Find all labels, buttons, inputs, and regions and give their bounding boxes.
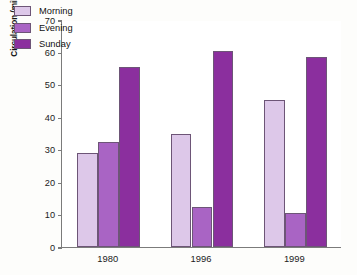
bar-evening-1999	[285, 213, 306, 247]
bar-sunday-1996	[213, 51, 234, 247]
bar-sunday-1980	[119, 67, 140, 247]
bar-evening-1996	[192, 207, 213, 247]
legend-item-sunday: Sunday	[14, 37, 73, 52]
legend-item-evening: Evening	[14, 21, 73, 36]
y-axis-tick-mark	[58, 247, 63, 248]
legend-label-morning: Morning	[39, 6, 73, 16]
bars-layer	[62, 21, 341, 247]
y-axis-tick-label: 20	[45, 178, 55, 188]
chart-legend: MorningEveningSunday	[14, 4, 73, 54]
legend-item-morning: Morning	[14, 4, 73, 19]
legend-label-evening: Evening	[39, 23, 73, 33]
bar-morning-1996	[171, 134, 192, 248]
bar-sunday-1999	[306, 57, 327, 247]
bar-evening-1980	[98, 142, 119, 247]
x-axis-label-1980: 1980	[61, 253, 154, 264]
legend-swatch-morning	[14, 6, 31, 16]
y-axis-tick-label: 50	[45, 80, 55, 90]
legend-label-sunday: Sunday	[39, 39, 71, 49]
plot-area: 010203040506070	[61, 21, 341, 248]
x-axis-label-1999: 1999	[248, 253, 341, 264]
y-axis-tick-label: 10	[45, 210, 55, 220]
y-axis-tick-label: 0	[50, 243, 55, 253]
y-axis-tick-label: 40	[45, 113, 55, 123]
legend-swatch-evening	[14, 23, 31, 33]
bar-morning-1980	[77, 153, 98, 247]
legend-swatch-sunday	[14, 39, 31, 49]
x-axis-label-1996: 1996	[154, 253, 247, 264]
bar-chart: Circulation (millions) 010203040506070 1…	[0, 0, 357, 275]
y-axis-tick-label: 30	[45, 145, 55, 155]
bar-morning-1999	[264, 100, 285, 247]
